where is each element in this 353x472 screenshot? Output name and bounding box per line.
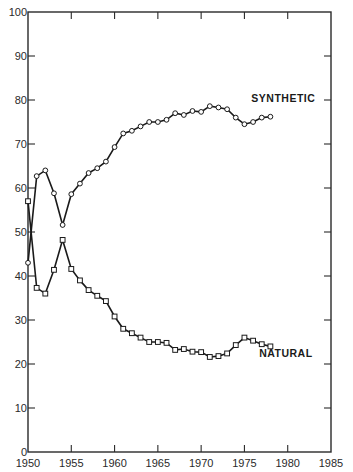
y-tick-label: 10 <box>15 402 27 414</box>
chart-labels: SYNTHETICNATURAL <box>251 92 315 359</box>
square-marker <box>207 355 212 360</box>
square-marker <box>259 342 264 347</box>
square-marker <box>121 326 126 331</box>
circle-marker <box>121 131 126 136</box>
x-tick-label: 1965 <box>146 457 170 469</box>
x-tick-label: 1985 <box>319 457 343 469</box>
square-marker <box>86 288 91 293</box>
square-marker <box>43 291 48 296</box>
circle-marker <box>112 145 117 150</box>
y-tick-label: 70 <box>15 138 27 150</box>
x-tick-label: 1980 <box>275 457 299 469</box>
circle-marker <box>164 117 169 122</box>
square-marker <box>78 278 83 283</box>
square-marker <box>225 351 230 356</box>
circle-marker <box>181 113 186 118</box>
y-tick-label: 80 <box>15 94 27 106</box>
y-tick-label: 90 <box>15 50 27 62</box>
circle-marker <box>129 128 134 133</box>
circle-marker <box>251 120 256 125</box>
circle-marker <box>233 115 238 120</box>
circle-marker <box>95 166 100 171</box>
square-marker <box>34 285 39 290</box>
square-marker <box>95 293 100 298</box>
square-marker <box>164 340 169 345</box>
circle-marker <box>138 124 143 129</box>
square-marker <box>251 338 256 343</box>
circle-marker <box>268 114 273 119</box>
square-marker <box>129 331 134 336</box>
y-tick-label: 0 <box>21 446 27 458</box>
square-marker <box>26 199 31 204</box>
square-marker <box>181 347 186 352</box>
square-marker <box>138 335 143 340</box>
square-marker <box>216 354 221 359</box>
circle-marker <box>69 192 74 197</box>
square-marker <box>69 267 74 272</box>
circle-marker <box>190 109 195 114</box>
circle-marker <box>259 115 264 120</box>
y-tick-label: 20 <box>15 358 27 370</box>
circle-marker <box>173 111 178 116</box>
square-marker <box>233 343 238 348</box>
x-tick-label: 1960 <box>102 457 126 469</box>
circle-marker <box>242 122 247 127</box>
circle-marker <box>155 120 160 125</box>
x-tick-label: 1950 <box>16 457 40 469</box>
square-marker <box>147 340 152 345</box>
line-chart: 1950195519601965197019751980198501020304… <box>0 0 353 472</box>
square-marker <box>112 314 117 319</box>
circle-marker <box>43 168 48 173</box>
chart-series <box>26 104 273 360</box>
square-marker <box>60 238 65 243</box>
square-marker <box>104 299 109 304</box>
circle-marker <box>78 181 83 186</box>
circle-marker <box>147 120 152 125</box>
circle-marker <box>26 260 31 265</box>
x-tick-label: 1955 <box>59 457 83 469</box>
y-tick-label: 40 <box>15 270 27 282</box>
x-tick-label: 1970 <box>189 457 213 469</box>
circle-marker <box>52 191 57 196</box>
circle-marker <box>199 109 204 114</box>
circle-marker <box>216 105 221 110</box>
square-marker <box>199 350 204 355</box>
circle-marker <box>225 107 230 112</box>
circle-marker <box>86 171 91 176</box>
y-tick-label: 60 <box>15 182 27 194</box>
x-tick-label: 1975 <box>232 457 256 469</box>
square-marker <box>173 348 178 353</box>
square-marker <box>52 267 57 272</box>
circle-marker <box>104 159 109 164</box>
circle-marker <box>60 223 65 228</box>
chart-axes: 1950195519601965197019751980198501020304… <box>9 6 344 469</box>
y-tick-label: 100 <box>9 6 27 18</box>
annotation-natural: NATURAL <box>259 347 313 359</box>
plot-frame <box>28 12 331 452</box>
y-tick-label: 30 <box>15 314 27 326</box>
square-marker <box>190 349 195 354</box>
square-marker <box>242 335 247 340</box>
annotation-synthetic: SYNTHETIC <box>251 92 315 104</box>
circle-marker <box>207 104 212 109</box>
square-marker <box>155 340 160 345</box>
y-tick-label: 50 <box>15 226 27 238</box>
circle-marker <box>34 174 39 179</box>
